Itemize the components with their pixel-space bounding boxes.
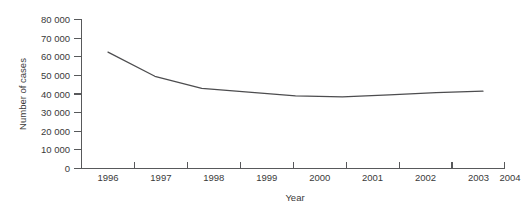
x-tick-label-1998: 1998 [203,172,224,183]
y-axis-tick-labels: 80 000 70 000 60 000 50 000 40 000 30 00… [41,14,70,174]
x-axis-title: Year [285,192,304,203]
x-tick-label-2002: 2002 [415,172,436,183]
x-tick-label-2003: 2003 [468,172,489,183]
x-axis-tick-labels: 1996 1997 1998 1999 2000 2001 2002 2003 … [97,172,520,183]
x-tick-label-2004: 2004 [499,172,520,183]
line-chart-figure: 80 000 70 000 60 000 50 000 40 000 30 00… [0,0,523,212]
y-tick-label-40000: 40 000 [41,89,70,100]
y-tick-label-60000: 60 000 [41,51,70,62]
x-tick-label-2001: 2001 [362,172,383,183]
x-tick-label-1999: 1999 [256,172,277,183]
y-tick-label-50000: 50 000 [41,70,70,81]
y-axis-title: Number of cases [17,58,28,130]
x-tick-label-1996: 1996 [97,172,118,183]
y-tick-label-70000: 70 000 [41,33,70,44]
x-tick-label-1997: 1997 [150,172,171,183]
chart-canvas: 80 000 70 000 60 000 50 000 40 000 30 00… [0,0,523,212]
y-tick-label-10000: 10 000 [41,144,70,155]
y-tick-label-0: 0 [65,163,70,174]
series-line-number-of-cases [108,52,483,97]
y-tick-label-30000: 30 000 [41,107,70,118]
y-tick-label-80000: 80 000 [41,14,70,25]
y-tick-label-20000: 20 000 [41,126,70,137]
y-axis-ticks [74,20,82,169]
x-tick-label-2000: 2000 [309,172,330,183]
x-axis-ticks [82,162,505,169]
